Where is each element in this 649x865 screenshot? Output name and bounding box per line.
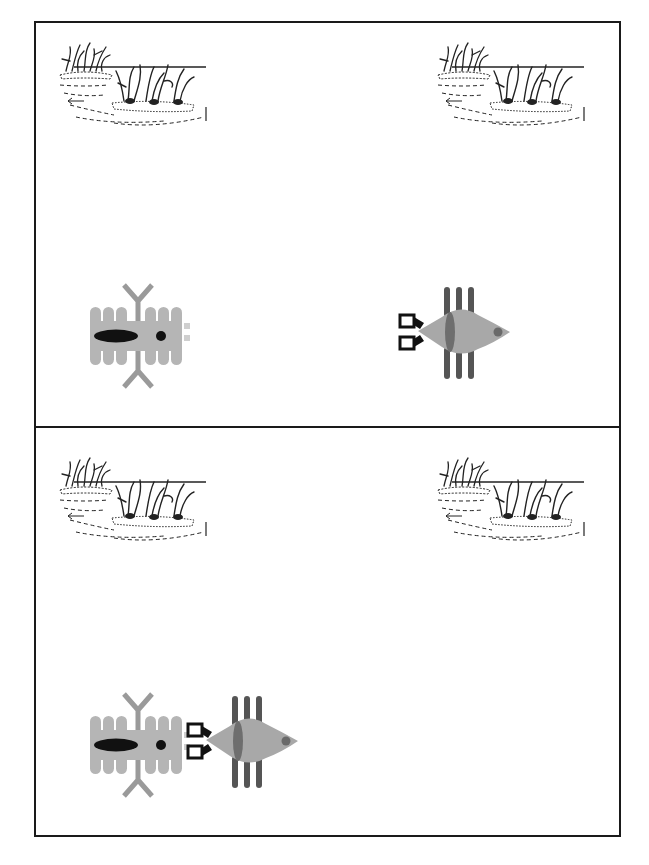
marsh-reeds-illustration-right — [432, 41, 592, 136]
larva-creature — [90, 694, 192, 798]
marsh-reeds-illustration-left — [54, 456, 214, 551]
marsh-reeds-illustration-right — [432, 456, 592, 551]
larva-creature — [90, 285, 192, 389]
fish-creature-attacking — [186, 696, 300, 790]
panel-top — [34, 21, 621, 428]
fish-creature — [398, 287, 512, 381]
marsh-reeds-illustration-left — [54, 41, 214, 136]
panel-bottom — [34, 426, 621, 837]
